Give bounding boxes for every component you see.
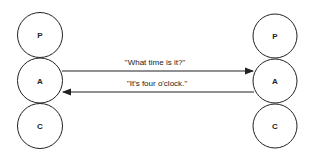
stimulus-transaction: ''What time is it?'' <box>62 58 253 71</box>
left-adult-label: A <box>37 77 43 86</box>
left-parent-label: P <box>37 31 43 40</box>
left-person: P A C <box>18 13 63 149</box>
left-adult-node: A <box>18 58 63 103</box>
right-child-label: C <box>272 122 278 131</box>
right-person: P A C <box>253 14 297 148</box>
response-label: ''It's four o'clock.'' <box>127 79 188 88</box>
stimulus-label: ''What time is it?'' <box>125 58 186 67</box>
right-parent-label: P <box>272 32 278 41</box>
transaction-diagram: P A C P A C ''What time is it?'' <box>0 0 314 166</box>
right-adult-node: A <box>253 59 297 103</box>
left-child-label: C <box>37 122 43 131</box>
left-parent-node: P <box>18 13 63 58</box>
left-child-node: C <box>18 104 63 149</box>
response-transaction: ''It's four o'clock.'' <box>63 79 254 92</box>
right-child-node: C <box>253 104 297 148</box>
right-parent-node: P <box>253 14 297 58</box>
right-adult-label: A <box>272 77 278 86</box>
